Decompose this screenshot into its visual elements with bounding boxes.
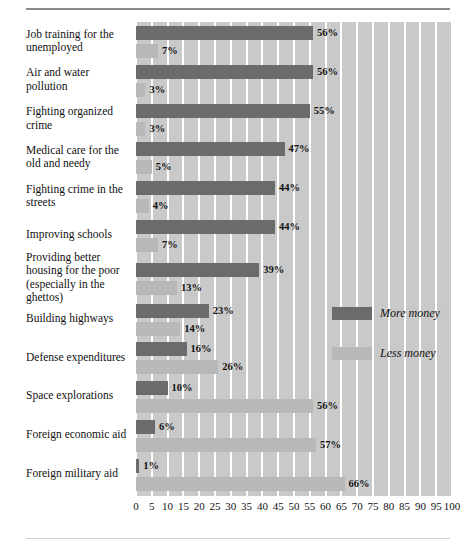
bar-more-9 <box>136 381 168 395</box>
value-label-more-6: 39% <box>263 263 284 277</box>
gridline <box>340 22 342 496</box>
x-tick-label-40: 40 <box>257 500 268 512</box>
category-label-line: Space explorations <box>26 389 134 403</box>
plot-area: 56%7%56%3%55%3%47%5%44%4%44%7%39%13%23%1… <box>136 22 452 496</box>
value-label-less-6: 13% <box>181 281 202 295</box>
gridline <box>277 22 279 496</box>
category-label-11: Foreign military aid <box>26 467 134 481</box>
gridline <box>261 22 263 496</box>
x-tick-label-65: 65 <box>336 500 347 512</box>
bar-more-10 <box>136 420 155 434</box>
x-tick-label-10: 10 <box>162 500 173 512</box>
value-label-more-7: 23% <box>213 304 234 318</box>
gridline <box>356 22 358 496</box>
category-label-line: Job training for the <box>26 28 134 42</box>
gridline <box>404 22 406 496</box>
category-label-line: unemployed <box>26 41 134 55</box>
value-label-less-1: 3% <box>149 83 165 97</box>
bar-more-1 <box>136 65 313 79</box>
category-label-line: Fighting organized <box>26 105 134 119</box>
legend-swatch-more-money <box>332 307 372 320</box>
bar-less-5 <box>136 238 158 252</box>
legend-swatch-less-money <box>332 347 372 360</box>
x-tick-label-45: 45 <box>273 500 284 512</box>
gridline <box>325 22 327 496</box>
value-label-more-2: 55% <box>314 104 335 118</box>
x-axis: 0510152025303540455055606570758085909510… <box>0 500 472 518</box>
category-label-line: Building highways <box>26 312 134 326</box>
x-tick-label-95: 95 <box>431 500 442 512</box>
value-label-more-9: 10% <box>172 381 193 395</box>
category-label-3: Medical care for theold and needy <box>26 144 134 171</box>
category-label-10: Foreign economic aid <box>26 428 134 442</box>
gridline <box>372 22 374 496</box>
category-label-line: crime <box>26 119 134 133</box>
x-tick-label-85: 85 <box>399 500 410 512</box>
top-divider-rule <box>26 8 450 10</box>
value-label-less-4: 4% <box>153 199 169 213</box>
value-label-less-2: 3% <box>149 122 165 136</box>
value-label-more-0: 56% <box>317 26 338 40</box>
value-label-more-5: 44% <box>279 220 300 234</box>
value-label-more-1: 56% <box>317 65 338 79</box>
category-label-line: Foreign economic aid <box>26 428 134 442</box>
category-label-5: Improving schools <box>26 228 134 242</box>
gridline <box>214 22 216 496</box>
x-tick-label-55: 55 <box>304 500 315 512</box>
category-label-line: Providing better <box>26 251 134 265</box>
bar-chart-figure: 56%7%56%3%55%3%47%5%44%4%44%7%39%13%23%1… <box>0 0 472 548</box>
legend-label: More money <box>380 306 440 321</box>
value-label-less-0: 7% <box>162 44 178 58</box>
gridline <box>419 22 421 496</box>
bar-more-4 <box>136 181 275 195</box>
gridline <box>230 22 232 496</box>
x-tick-label-35: 35 <box>241 500 252 512</box>
bar-less-0 <box>136 44 158 58</box>
value-label-less-8: 26% <box>222 360 243 374</box>
bar-more-2 <box>136 104 310 118</box>
value-label-less-5: 7% <box>162 238 178 252</box>
bar-less-9 <box>136 399 313 413</box>
x-tick-label-80: 80 <box>383 500 394 512</box>
bar-less-8 <box>136 360 218 374</box>
bar-less-10 <box>136 438 316 452</box>
x-tick-label-25: 25 <box>210 500 221 512</box>
value-label-more-8: 16% <box>191 342 212 356</box>
x-tick-label-5: 5 <box>149 500 155 512</box>
category-label-line: Defense expenditures <box>26 351 134 365</box>
gridline <box>293 22 295 496</box>
category-label-line: Air and water <box>26 66 134 80</box>
category-label-4: Fighting crime in thestreets <box>26 183 134 210</box>
value-label-more-11: 1% <box>143 459 159 473</box>
category-label-7: Building highways <box>26 312 134 326</box>
bar-less-6 <box>136 281 177 295</box>
value-label-less-11: 66% <box>349 477 370 491</box>
value-label-less-9: 56% <box>317 399 338 413</box>
bar-less-4 <box>136 199 149 213</box>
bar-more-0 <box>136 26 313 40</box>
value-label-more-3: 47% <box>289 142 310 156</box>
category-label-1: Air and waterpollution <box>26 66 134 93</box>
category-label-line: ghettos) <box>26 291 134 305</box>
bar-more-3 <box>136 142 285 156</box>
bar-more-6 <box>136 263 259 277</box>
gridline <box>451 22 453 496</box>
x-tick-label-0: 0 <box>133 500 139 512</box>
bar-more-7 <box>136 304 209 318</box>
value-label-less-10: 57% <box>320 438 341 452</box>
gridline <box>435 22 437 496</box>
category-label-line: housing for the poor <box>26 264 134 278</box>
bar-less-1 <box>136 83 145 97</box>
x-tick-label-70: 70 <box>352 500 363 512</box>
value-label-more-10: 6% <box>159 420 175 434</box>
value-label-more-4: 44% <box>279 181 300 195</box>
x-tick-label-100: 100 <box>444 500 461 512</box>
x-tick-label-50: 50 <box>289 500 300 512</box>
gridline <box>198 22 200 496</box>
x-tick-label-90: 90 <box>415 500 426 512</box>
bar-more-11 <box>136 459 139 473</box>
gridline <box>388 22 390 496</box>
bar-more-5 <box>136 220 275 234</box>
gridline <box>309 22 311 496</box>
value-label-less-3: 5% <box>156 160 172 174</box>
